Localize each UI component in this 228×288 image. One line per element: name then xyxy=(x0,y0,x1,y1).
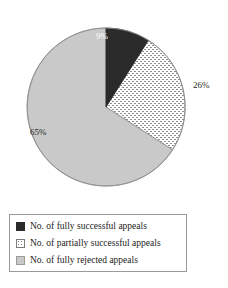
legend-label-fully-rejected: No. of fully rejected appeals xyxy=(30,256,138,266)
legend-item-fully-successful: No. of fully successful appeals xyxy=(16,218,186,235)
legend-item-fully-rejected: No. of fully rejected appeals xyxy=(16,252,186,269)
legend-label-partially-successful: No. of partially successful appeals xyxy=(30,239,161,249)
pie-chart-figure: 9% 26% 65% No. of fully successful appea… xyxy=(0,0,228,288)
pie-chart-svg xyxy=(0,0,228,205)
pie-chart-plot-area: 9% 26% 65% xyxy=(0,0,228,205)
chart-legend: No. of fully successful appeals No. of p… xyxy=(9,214,187,272)
legend-label-fully-successful: No. of fully successful appeals xyxy=(30,222,147,232)
dark-solid-swatch xyxy=(16,222,25,231)
pie-label-fully-successful: 9% xyxy=(96,32,108,41)
dotted-swatch xyxy=(16,239,25,248)
grey-solid-swatch xyxy=(16,256,25,265)
pie-label-partially-successful: 26% xyxy=(193,81,210,90)
pie-label-fully-rejected: 65% xyxy=(30,128,47,137)
legend-item-partially-successful: No. of partially successful appeals xyxy=(16,235,186,252)
